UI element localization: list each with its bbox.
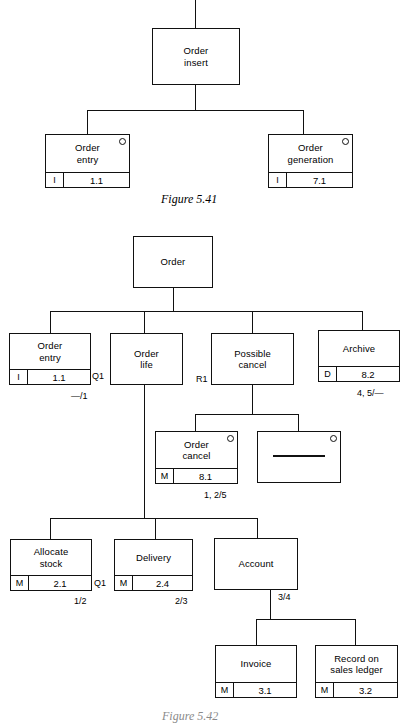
module-footer: M 2.1 — [11, 575, 91, 590]
module-box-allocate-stock[interactable]: Allocate stock M 2.1 — [10, 539, 92, 591]
label-ratio-delivery: 2/3 — [175, 596, 188, 606]
connector-line — [270, 590, 271, 619]
module-box-possible-cancel[interactable]: Possible cancel — [211, 333, 294, 385]
connector-line — [252, 311, 253, 333]
connector-line — [303, 110, 304, 134]
module-title: Account — [215, 539, 297, 589]
figure-caption: Figure 5.41 — [161, 192, 217, 207]
module-title: Order — [134, 237, 212, 287]
connector-line — [195, 85, 196, 110]
module-box-order-generation[interactable]: Order generation I 7.1 — [268, 134, 353, 188]
connector-line — [355, 619, 356, 645]
connector-bus — [87, 110, 304, 111]
module-title: Order entry — [10, 334, 90, 369]
module-title: Record on sales ledger — [316, 646, 397, 682]
module-title: Allocate stock — [11, 540, 91, 575]
module-number: 1.1 — [28, 370, 90, 384]
module-code: I — [269, 173, 287, 187]
module-code: M — [156, 469, 174, 483]
label-ratio-allocate: 1/2 — [74, 596, 87, 606]
module-title: Possible cancel — [212, 334, 293, 384]
module-footer: M 3.2 — [316, 682, 397, 697]
module-number: 7.1 — [287, 173, 352, 187]
circle-marker-icon — [227, 435, 234, 442]
module-box-order[interactable]: Order — [133, 236, 213, 288]
label-q1-allocate-stock: Q1 — [94, 578, 106, 588]
connector-line — [155, 518, 156, 539]
module-footer: M 3.1 — [216, 682, 296, 697]
module-footer: D 8.2 — [319, 366, 399, 381]
circle-marker-icon — [119, 138, 126, 145]
module-number: 3.2 — [334, 683, 397, 697]
connector-line — [50, 518, 51, 539]
module-code: M — [11, 576, 29, 590]
blank-dash-icon — [273, 455, 326, 457]
module-box-blank[interactable] — [257, 431, 341, 483]
connector-bus — [195, 414, 299, 415]
module-title: Order entry — [46, 135, 129, 172]
module-title: Invoice — [216, 646, 296, 682]
module-footer: I 1.1 — [46, 172, 129, 187]
connector-line — [256, 619, 257, 645]
connector-bus — [50, 311, 362, 312]
module-number: 2.4 — [133, 576, 192, 590]
circle-marker-icon — [342, 138, 349, 145]
connector-line — [87, 110, 88, 134]
module-footer: M 8.1 — [156, 468, 237, 483]
module-box-archive[interactable]: Archive D 8.2 — [318, 330, 400, 382]
module-number: 8.2 — [337, 367, 399, 381]
label-ratio-order-entry: —/1 — [71, 391, 88, 401]
connector-line — [144, 385, 145, 518]
module-title: Order cancel — [156, 432, 237, 468]
module-box-order-insert[interactable]: Order insert — [152, 28, 240, 85]
module-box-invoice[interactable]: Invoice M 3.1 — [215, 645, 297, 698]
connector-line — [50, 311, 51, 333]
module-title: Delivery — [115, 540, 192, 575]
label-ratio-order-cancel: 1, 2/5 — [204, 490, 227, 500]
connector-line — [173, 288, 174, 311]
module-number: 2.1 — [29, 576, 91, 590]
module-title: Order generation — [269, 135, 352, 172]
label-ratio-archive: 4, 5/— — [357, 388, 384, 398]
module-code: M — [115, 576, 133, 590]
label-q1-order-entry: Q1 — [92, 371, 104, 381]
module-title: Order insert — [153, 29, 239, 84]
connector-line — [257, 518, 258, 539]
module-title: Archive — [319, 331, 399, 366]
connector-bus — [256, 619, 356, 620]
figure-caption: Figure 5.42 — [162, 709, 218, 724]
module-footer: I 7.1 — [269, 172, 352, 187]
module-box-order-life[interactable]: Order life — [110, 333, 183, 385]
module-number: 3.1 — [234, 683, 296, 697]
module-box-order-entry[interactable]: Order entry I 1.1 — [45, 134, 130, 188]
module-code: M — [316, 683, 334, 697]
connector-line — [195, 414, 196, 431]
module-box-order-entry-2[interactable]: Order entry I 1.1 — [9, 333, 91, 385]
module-code: I — [10, 370, 28, 384]
module-footer: M 2.4 — [115, 575, 192, 590]
module-code: D — [319, 367, 337, 381]
label-r1-order-life: R1 — [196, 374, 208, 384]
connector-line — [195, 0, 196, 28]
connector-bus — [50, 518, 257, 519]
module-box-order-cancel[interactable]: Order cancel M 8.1 — [155, 431, 238, 484]
module-number: 1.1 — [64, 173, 129, 187]
module-footer: I 1.1 — [10, 369, 90, 384]
module-box-account[interactable]: Account — [214, 538, 298, 590]
module-code: I — [46, 173, 64, 187]
module-title: Order life — [111, 334, 182, 384]
connector-line — [144, 311, 145, 333]
label-ratio-account: 3/4 — [278, 592, 291, 602]
module-number: 8.1 — [174, 469, 237, 483]
module-box-record-on-sales-ledger[interactable]: Record on sales ledger M 3.2 — [315, 645, 398, 698]
circle-marker-icon — [330, 435, 337, 442]
module-box-delivery[interactable]: Delivery M 2.4 — [114, 539, 193, 591]
connector-line — [298, 414, 299, 431]
connector-line — [252, 385, 253, 414]
module-code: M — [216, 683, 234, 697]
